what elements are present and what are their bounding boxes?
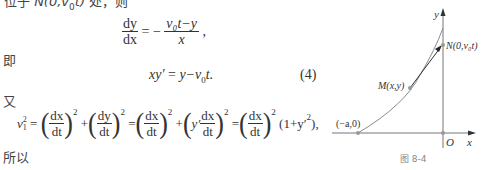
point-m [408,86,412,90]
origin-label: O [446,136,454,148]
point-a-label: (−a,0) [336,118,360,130]
figure-8-4: y x O (−a,0) M(x,y) N(0,v₀t) 图 8-4 [0,0,487,170]
y-axis-label: y [433,8,439,20]
figure-caption: 图 8-4 [400,154,427,164]
tangent-line [410,48,440,88]
point-n [441,43,445,47]
point-n-label: N(0,v₀t) [445,40,478,52]
point-origin [441,131,445,135]
y-axis-arrow-icon [441,8,446,16]
x-axis-arrow-icon [468,131,476,136]
x-axis-label: x [466,136,472,148]
tangent-arrow-icon [435,45,442,52]
point-m-label: M(x,y) [377,80,405,92]
point-a [356,131,360,135]
